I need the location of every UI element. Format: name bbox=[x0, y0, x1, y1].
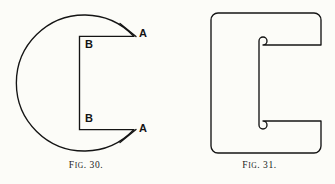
label-b-bottom: B bbox=[85, 113, 93, 124]
figure-31-outline bbox=[211, 13, 321, 153]
caption-30-smallcaps: IG bbox=[75, 161, 84, 170]
label-b-top: B bbox=[85, 39, 93, 50]
figure-31-caption: FIG. 31. bbox=[182, 160, 335, 170]
label-a-top: A bbox=[139, 28, 147, 39]
caption-30-number: . 30. bbox=[84, 160, 104, 170]
figure-30-upper-tip-taper bbox=[120, 24, 136, 37]
figure-31: FIG. 31. bbox=[180, 0, 335, 184]
caption-31-number: . 31. bbox=[257, 160, 277, 170]
figure-30-drawing bbox=[0, 0, 180, 160]
figure-31-drawing bbox=[180, 0, 335, 160]
figure-page: A B B A FIG. 30. FIG. 31. bbox=[0, 0, 335, 184]
figure-30-outer-arc bbox=[16, 15, 133, 151]
caption-31-smallcaps: IG bbox=[248, 161, 257, 170]
figure-30: A B B A FIG. 30. bbox=[0, 0, 180, 184]
figure-30-lower-tip-taper bbox=[120, 129, 136, 142]
figure-30-caption: FIG. 30. bbox=[0, 160, 176, 170]
label-a-bottom: A bbox=[139, 123, 147, 134]
